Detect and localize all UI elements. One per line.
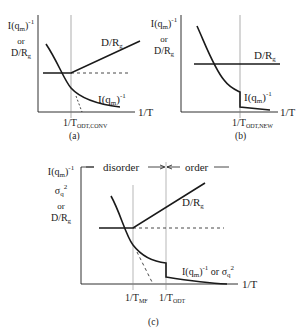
panel-b-caption: (b) xyxy=(235,130,246,142)
panel-b-upper-curve-label: D/Rg xyxy=(254,49,276,65)
panel-c-caption: (c) xyxy=(148,316,159,328)
ylabel-or: or xyxy=(44,200,78,212)
label-sub: ODT,CONV xyxy=(77,123,107,129)
label-or: or σ xyxy=(208,266,227,277)
label-text: I(q xyxy=(182,266,194,277)
label-text: D/R xyxy=(182,196,200,208)
ylabel-text: I(q xyxy=(151,18,163,29)
panel-c-order-label: order xyxy=(185,161,208,173)
ylabel-sup: -1 xyxy=(171,16,177,24)
panel-c-xlabel: 1/T xyxy=(242,278,257,290)
panel-b-lower-curve-label: I(qm)-1 xyxy=(244,88,272,107)
label-sub: g xyxy=(272,55,276,63)
panel-c-lower-curve-label: I(qm)-1 or σq2 xyxy=(182,262,234,281)
label-sub: g xyxy=(119,42,123,50)
ylabel-sup: -1 xyxy=(28,18,34,26)
panel-a-xlabel: 1/T xyxy=(138,106,153,118)
panel-a-meanfield-dashed xyxy=(76,96,82,112)
panel-c-upper-curve-label: D/Rg xyxy=(182,196,204,212)
label-sup2: 2 xyxy=(231,264,235,272)
ylabel-or: or xyxy=(148,33,180,45)
panel-b-ylabel: I(qm)-1 or D/Rg xyxy=(148,14,180,60)
panel-c-odt-label: 1/TODT xyxy=(159,292,185,307)
panel-a-caption: (a) xyxy=(69,130,80,142)
panel-c-ylabel: I(qm)-1 σq2 or D/Rg xyxy=(44,162,78,227)
ylabel-text: I(q xyxy=(8,20,20,31)
panel-c-disorder-label: disorder xyxy=(103,161,139,173)
ylabel-dr-sub: g xyxy=(68,217,72,225)
panel-a-diffusion-curve xyxy=(43,41,140,73)
label-sup: -1 xyxy=(120,92,126,100)
ylabel-dr: D/R xyxy=(51,212,68,223)
panel-a-ylabel: I(qm)-1 or D/Rg xyxy=(6,16,36,62)
ylabel-text: I(q xyxy=(48,166,60,177)
ylabel-dr: D/R xyxy=(11,47,28,58)
ylabel-or: or xyxy=(6,35,36,47)
label-text: D/R xyxy=(254,49,272,61)
panel-b-xlabel: 1/T xyxy=(280,106,295,118)
ylabel-sup: -1 xyxy=(68,164,74,172)
ylabel-dr: D/R xyxy=(154,45,171,56)
panel-a-upper-curve-label: D/Rg xyxy=(101,36,123,52)
ylabel-sigma-sup: 2 xyxy=(64,183,68,191)
label-text: I(q xyxy=(98,93,111,105)
label-sub: ODT xyxy=(173,298,185,304)
panel-c-mf-label: 1/TMF xyxy=(125,292,148,307)
label-text: 1/T xyxy=(125,292,139,303)
label-sub: g xyxy=(200,202,204,210)
label-text: 1/T xyxy=(232,117,246,128)
label-sup: -1 xyxy=(266,90,272,98)
label-text: 1/T xyxy=(63,117,77,128)
ylabel-dr-sub: g xyxy=(28,52,32,60)
label-sub: ODT,NEW xyxy=(246,123,273,129)
label-sub: MF xyxy=(139,298,148,304)
ylabel-sigma-sub: q xyxy=(60,190,64,198)
ylabel-dr-sub: g xyxy=(171,50,175,58)
label-text: 1/T xyxy=(159,292,173,303)
label-text: D/R xyxy=(101,36,119,48)
panel-a-lower-curve-label: I(qm)-1 xyxy=(98,90,126,109)
label-text: I(q xyxy=(244,91,257,103)
label-sub2: q xyxy=(227,271,231,279)
